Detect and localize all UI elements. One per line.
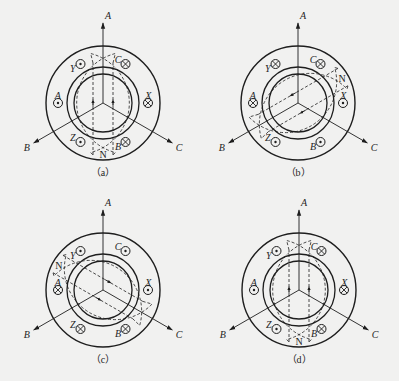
axis-label: B (220, 329, 226, 340)
dot-icon (275, 328, 277, 330)
pole-label-N: N (339, 73, 346, 84)
panel-caption: （b） (286, 167, 311, 178)
coil-label-A: A (54, 277, 62, 288)
coil-label-X: X (340, 277, 348, 288)
dot-icon (319, 141, 321, 143)
panel-a: ABCYCAXZBN（a） (24, 10, 183, 178)
axis-label: B (24, 142, 30, 153)
axis-label: A (299, 10, 307, 21)
dot-icon (124, 250, 126, 252)
coil-label-C: C (115, 241, 122, 252)
dot-icon (57, 102, 59, 104)
dot-icon (274, 141, 276, 143)
axis-label: C (371, 142, 378, 153)
pole-label-N: N (55, 260, 62, 271)
coil-label-B: B (311, 328, 317, 339)
panel-caption: （d） (287, 354, 312, 365)
coil-label-C: C (115, 54, 122, 65)
panel-d: ABCYCAXZBN（d） (220, 197, 379, 365)
rotating-field-figure: ABCYCAXZBN（a）ABCYCAXZBN（b）ABCYCAXZBN（c）A… (0, 0, 399, 381)
dot-icon (147, 289, 149, 291)
dot-icon (253, 289, 255, 291)
flux-arrow-icon (105, 279, 110, 282)
flux-arrow-icon (301, 110, 306, 113)
flux-arrow-icon (291, 92, 296, 95)
coil-label-X: X (144, 90, 152, 101)
dot-icon (275, 250, 277, 252)
axis-label: C (176, 142, 183, 153)
axis-label: B (219, 142, 225, 153)
coil-label-X: X (144, 277, 152, 288)
dot-icon (79, 63, 81, 65)
panel-c: ABCYCAXZBN（c） (24, 197, 183, 365)
panel-caption: （c） (91, 354, 115, 365)
panel-caption: （a） (91, 167, 115, 178)
panel-b: ABCYCAXZBN（b） (219, 10, 378, 178)
pole-label-N: N (99, 149, 106, 160)
axis-label: B (24, 329, 30, 340)
coil-label-B: B (115, 141, 121, 152)
coil-label-B: B (310, 141, 316, 152)
coil-label-B: B (115, 328, 121, 339)
flux-arrow-icon (95, 297, 100, 300)
coil-label-C: C (310, 54, 317, 65)
axis-label: C (176, 329, 183, 340)
coil-label-C: C (311, 241, 318, 252)
figure-canvas: ABCYCAXZBN（a）ABCYCAXZBN（b）ABCYCAXZBN（c）A… (0, 0, 399, 381)
coil-label-X: X (339, 90, 347, 101)
coil-label-A: A (54, 90, 62, 101)
dot-icon (79, 141, 81, 143)
coil-label-Z: Z (70, 319, 76, 330)
pole-label-N: N (295, 336, 302, 347)
coil-label-Z: Z (266, 319, 272, 330)
coil-label-Z: Z (70, 132, 76, 143)
dot-icon (342, 102, 344, 104)
coil-label-Z: Z (265, 132, 271, 143)
axis-label: A (300, 197, 308, 208)
coil-label-A: A (249, 90, 257, 101)
coil-label-A: A (250, 277, 258, 288)
axis-label: A (104, 197, 112, 208)
axis-label: A (104, 10, 112, 21)
dot-icon (79, 250, 81, 252)
axis-label: C (372, 329, 379, 340)
